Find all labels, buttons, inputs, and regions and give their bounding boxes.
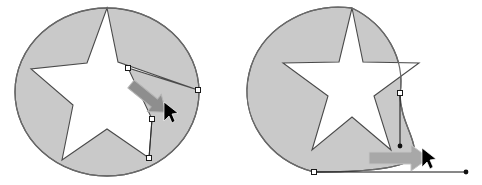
cursor-arrow-icon bbox=[422, 148, 436, 169]
illustration-canvas bbox=[0, 0, 482, 185]
vector-illustration bbox=[0, 0, 482, 185]
right-disc-with-star-cutout[interactable] bbox=[247, 7, 419, 172]
left-panel bbox=[15, 8, 201, 176]
control-point-right[interactable] bbox=[398, 144, 403, 149]
left-circle-shape[interactable] bbox=[15, 8, 199, 176]
anchor-node-right[interactable] bbox=[398, 91, 403, 96]
control-point-bottom[interactable] bbox=[464, 170, 469, 175]
anchor-node-bottom[interactable] bbox=[312, 170, 317, 175]
anchor-node-lower[interactable] bbox=[147, 156, 152, 161]
mouse-cursor-right bbox=[422, 148, 436, 169]
anchor-node-mid[interactable] bbox=[150, 117, 155, 122]
left-disc-with-star-cutout[interactable] bbox=[15, 8, 199, 176]
anchor-node-dragged[interactable] bbox=[196, 88, 201, 93]
anchor-node-upper[interactable] bbox=[126, 66, 131, 71]
right-panel bbox=[247, 7, 468, 174]
right-circle-shape[interactable] bbox=[247, 7, 414, 172]
